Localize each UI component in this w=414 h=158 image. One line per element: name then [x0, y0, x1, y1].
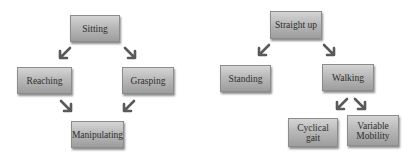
- arrow-down-right-icon: [352, 97, 368, 111]
- arrow-down-left-icon: [57, 46, 73, 60]
- arrow-down-right-icon: [58, 99, 74, 113]
- node-grasping: Grasping: [122, 67, 174, 94]
- node-straight-up: Straight up: [270, 11, 322, 39]
- node-sitting: Sitting: [70, 15, 120, 42]
- node-standing: Standing: [220, 65, 271, 92]
- arrow-down-right-icon: [122, 46, 138, 60]
- node-manipulating: Manipulating: [71, 121, 124, 148]
- node-cyclical-gait: Cyclical gait: [288, 118, 338, 147]
- arrow-down-right-icon: [321, 43, 337, 57]
- node-reaching: Reaching: [17, 67, 72, 94]
- arrow-down-left-icon: [334, 97, 350, 111]
- node-walking: Walking: [322, 64, 374, 91]
- arrow-down-left-icon: [121, 99, 137, 113]
- node-variable-mobility: Variable Mobility: [347, 115, 399, 146]
- arrow-down-left-icon: [256, 43, 272, 57]
